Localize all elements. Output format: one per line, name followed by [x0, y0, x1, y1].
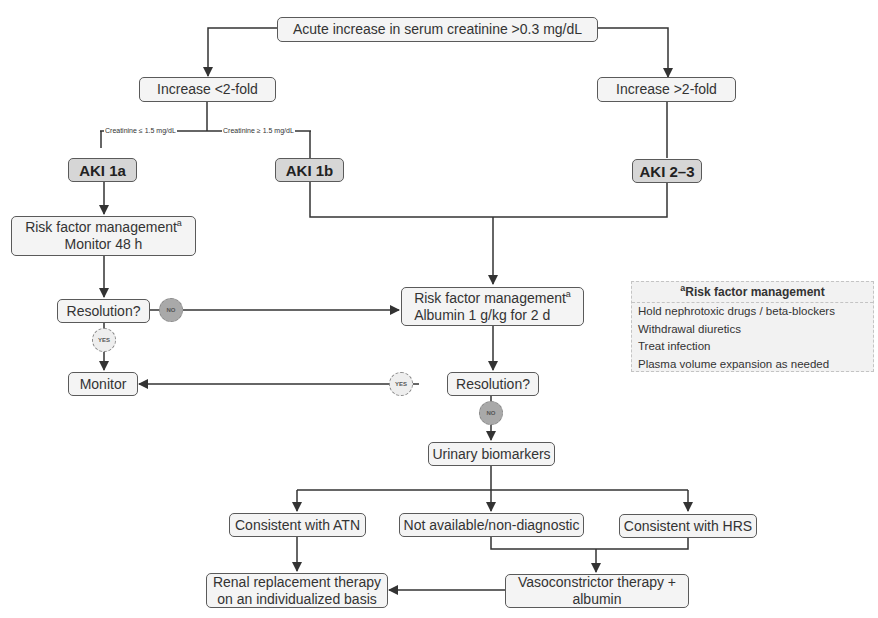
aki-2-3-node: AKI 2–3: [632, 159, 702, 183]
no-badge-2: NO: [479, 401, 503, 425]
consistent-with-atn-node: Consistent with ATN: [229, 513, 366, 537]
monitor-node: Monitor: [68, 372, 138, 396]
resolution-2-node: Resolution?: [447, 372, 539, 396]
resolution-1-node: Resolution?: [57, 299, 150, 323]
increase-gt-2fold-node: Increase >2-fold: [597, 77, 736, 102]
consistent-with-hrs-label: Consistent with HRS: [624, 518, 752, 535]
rfm2-line2: Albumin 1 g/kg for 2 d: [414, 307, 550, 324]
rfm1-line1: Risk factor managementa: [25, 219, 182, 236]
legend-item: Treat infection: [632, 338, 873, 356]
consistent-with-atn-label: Consistent with ATN: [235, 517, 360, 534]
legend-item: Plasma volume expansion as needed: [632, 356, 873, 374]
legend-title: aRisk factor management: [632, 282, 873, 303]
increase-gt-2fold-label: Increase >2-fold: [616, 81, 717, 98]
resolution-1-label: Resolution?: [67, 303, 141, 320]
not-available-node: Not available/non-diagnostic: [399, 513, 584, 537]
legend-item: Hold nephrotoxic drugs / beta-blockers: [632, 303, 873, 321]
no-badge-1: NO: [159, 298, 183, 322]
risk-factor-management-albumin-node: Risk factor managementa Albumin 1 g/kg f…: [401, 287, 584, 326]
risk-factor-management-monitor-node: Risk factor managementa Monitor 48 h: [11, 216, 196, 256]
aki-1a-node: AKI 1a: [68, 158, 137, 182]
rfm1-line2: Monitor 48 h: [65, 236, 143, 253]
consistent-with-hrs-node: Consistent with HRS: [619, 514, 757, 538]
vaso-line1: Vasoconstrictor therapy +: [518, 574, 676, 591]
vasoconstrictor-therapy-node: Vasoconstrictor therapy + albumin: [505, 574, 689, 608]
condition-creatinine-high: Creatinine ≥ 1.5 mg/dL: [222, 127, 295, 134]
aki-1a-label: AKI 1a: [79, 162, 126, 179]
yes-badge-1: YES: [92, 328, 116, 352]
aki-2-3-label: AKI 2–3: [639, 163, 694, 180]
risk-factor-legend: aRisk factor management Hold nephrotoxic…: [631, 281, 874, 372]
aki-1b-node: AKI 1b: [275, 158, 344, 182]
legend-item: Withdrawal diuretics: [632, 321, 873, 339]
start-node-label: Acute increase in serum creatinine >0.3 …: [293, 21, 582, 38]
vaso-line2: albumin: [572, 591, 621, 608]
increase-lt-2fold-node: Increase <2-fold: [139, 77, 276, 102]
rfm2-line1: Risk factor managementa: [414, 290, 571, 307]
not-available-label: Not available/non-diagnostic: [404, 517, 580, 534]
renal-replacement-therapy-node: Renal replacement therapy on an individu…: [206, 573, 388, 608]
resolution-2-label: Resolution?: [456, 376, 530, 393]
urinary-biomarkers-label: Urinary biomarkers: [432, 446, 550, 463]
aki-1b-label: AKI 1b: [286, 162, 334, 179]
start-node: Acute increase in serum creatinine >0.3 …: [277, 17, 598, 42]
yes-badge-2: YES: [389, 372, 413, 396]
increase-lt-2fold-label: Increase <2-fold: [157, 81, 258, 98]
rrt-line2: on an individualized basis: [217, 591, 377, 608]
urinary-biomarkers-node: Urinary biomarkers: [428, 442, 555, 466]
monitor-label: Monitor: [80, 376, 127, 393]
rrt-line1: Renal replacement therapy: [213, 574, 381, 591]
condition-creatinine-low: Creatinine ≤ 1.5 mg/dL: [104, 127, 177, 134]
